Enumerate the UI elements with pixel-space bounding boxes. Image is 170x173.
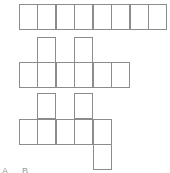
net-cell [93, 144, 112, 170]
answer-labels: A. B. [2, 166, 37, 173]
net-cell [19, 119, 38, 145]
net-cell [37, 119, 56, 145]
net-cell [93, 62, 112, 88]
net-cell [56, 4, 75, 30]
net-cell [74, 93, 93, 119]
net-cell [37, 62, 56, 88]
net-cell [130, 4, 149, 30]
net-cell [56, 119, 75, 145]
net-cell [74, 62, 93, 88]
cube-nets-diagram [0, 0, 170, 173]
net-cell [93, 4, 112, 30]
net-cell [93, 119, 112, 145]
net-cell [37, 4, 56, 30]
net-cell [74, 4, 93, 30]
net-cell [37, 93, 56, 119]
net-cell [37, 37, 56, 63]
net-cell [111, 4, 130, 30]
net-cell [56, 62, 75, 88]
net-cell [19, 4, 38, 30]
net-cell [74, 37, 93, 63]
net-cell [19, 62, 38, 88]
net-cell [148, 4, 167, 30]
net-cell [111, 62, 130, 88]
net-cell [74, 119, 93, 145]
